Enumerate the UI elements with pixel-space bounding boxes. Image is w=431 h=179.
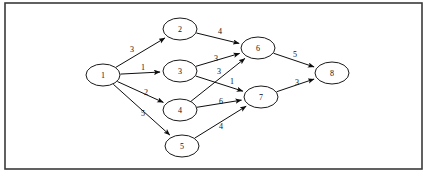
graph-node-8[interactable]: 8 <box>315 62 349 84</box>
graph-node-7[interactable]: 7 <box>244 86 278 108</box>
node-ellipse-5 <box>165 135 199 157</box>
node-ellipse-1 <box>86 64 120 86</box>
graph-node-3[interactable]: 3 <box>163 60 197 82</box>
node-ellipse-6 <box>241 37 275 59</box>
node-ellipse-3 <box>163 60 197 82</box>
node-ellipse-4 <box>163 99 197 121</box>
node-ellipse-7 <box>244 86 278 108</box>
node-ellipse-2 <box>163 18 197 40</box>
graph-node-6[interactable]: 6 <box>241 37 275 59</box>
graph-node-1[interactable]: 1 <box>86 64 120 86</box>
graph-node-5[interactable]: 5 <box>165 135 199 157</box>
node-ellipse-8 <box>315 62 349 84</box>
graph-diagram: 12345678 312543136453 <box>0 0 431 179</box>
graph-node-4[interactable]: 4 <box>163 99 197 121</box>
figure-root: 12345678 312543136453 <box>0 0 431 179</box>
graph-node-2[interactable]: 2 <box>163 18 197 40</box>
figure-frame <box>5 3 422 169</box>
